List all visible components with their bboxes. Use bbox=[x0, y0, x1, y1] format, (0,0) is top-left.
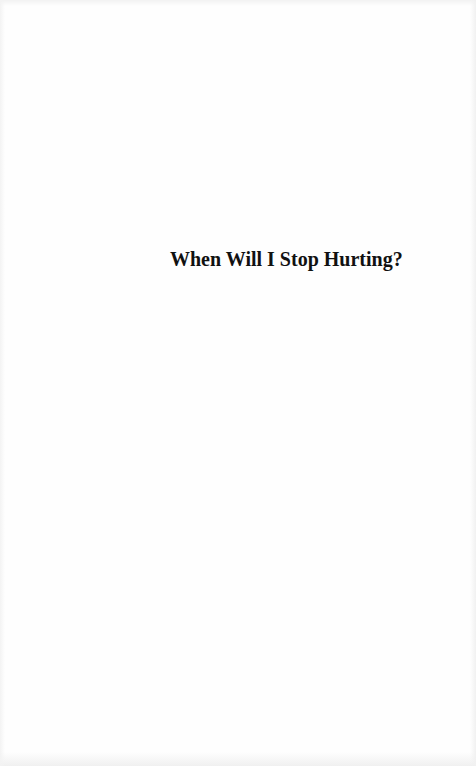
scan-edge-left bbox=[0, 0, 5, 766]
half-title: When Will I Stop Hurting? bbox=[170, 247, 403, 271]
book-page: When Will I Stop Hurting? bbox=[0, 0, 476, 766]
scan-edge-top bbox=[0, 0, 476, 6]
scan-edge-right bbox=[470, 0, 476, 766]
scan-edge-bottom bbox=[0, 752, 476, 766]
